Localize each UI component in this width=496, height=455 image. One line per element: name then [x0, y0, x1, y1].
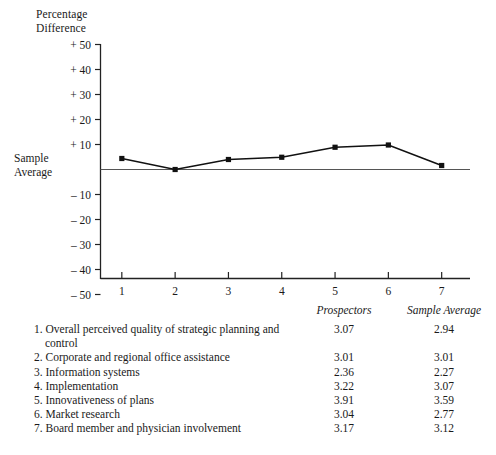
- table-cell-item-label: 4. Implementation: [32, 379, 294, 393]
- y-tick-label: – 10: [70, 189, 91, 201]
- x-axis-ticks: 1234567: [119, 272, 445, 297]
- data-point-marker: [279, 155, 284, 160]
- table-header-row: Prospectors Sample Average: [32, 304, 494, 322]
- table-head: Prospectors Sample Average: [32, 304, 494, 322]
- item-label-text: 2. Corporate and regional office assista…: [43, 350, 294, 364]
- table-cell-prospectors: 3.91: [294, 393, 394, 407]
- table-cell-prospectors: 3.01: [294, 350, 394, 364]
- table-cell-sample-average: 2.77: [394, 407, 494, 421]
- y-tick-label: + 20: [70, 114, 91, 126]
- data-point-marker: [332, 145, 337, 150]
- data-point-marker: [386, 142, 391, 147]
- y-tick-label: + 30: [70, 89, 91, 101]
- data-point-marker: [439, 163, 444, 168]
- item-label-text: 6. Market research: [43, 407, 294, 421]
- table-cell-sample-average: 2.94: [394, 322, 494, 350]
- col-header-items: [32, 304, 294, 322]
- chart-figure: Percentage Difference Sample Average + 5…: [0, 0, 496, 310]
- data-point-marker: [226, 157, 231, 162]
- y-tick-label: – 20: [70, 214, 91, 226]
- table-cell-prospectors: 3.22: [294, 379, 394, 393]
- table-row: 6. Market research3.042.77: [32, 407, 494, 421]
- item-label-text: 4. Implementation: [43, 379, 294, 393]
- col-header-prospectors: Prospectors: [294, 304, 394, 322]
- col-header-sample-average: Sample Average: [394, 304, 494, 322]
- y-tick-label: – 30: [70, 239, 91, 251]
- table-cell-sample-average: 3.12: [394, 421, 494, 435]
- line-chart-plot: + 50+ 40+ 30+ 20+ 10– 10– 20– 30– 40– 50…: [0, 0, 496, 310]
- x-tick-label: 4: [279, 285, 285, 297]
- table-row: 3. Information systems2.362.27: [32, 365, 494, 379]
- y-axis-ticks: + 50+ 40+ 30+ 20+ 10– 10– 20– 30– 40– 50: [70, 39, 101, 301]
- table-body: 1. Overall perceived quality of strategi…: [32, 322, 494, 436]
- item-label-text: 5. Innovativeness of plans: [43, 393, 294, 407]
- table-cell-item-label: 5. Innovativeness of plans: [32, 393, 294, 407]
- table-cell-sample-average: 3.59: [394, 393, 494, 407]
- y-tick-label: + 40: [70, 64, 91, 76]
- data-point-marker: [173, 167, 178, 172]
- item-label-text: 1. Overall perceived quality of strategi…: [43, 322, 294, 350]
- x-tick-label: 7: [439, 285, 445, 297]
- table-cell-prospectors: 2.36: [294, 365, 394, 379]
- x-tick-label: 2: [172, 285, 178, 297]
- table-cell-item-label: 1. Overall perceived quality of strategi…: [32, 322, 294, 350]
- item-label-text: 7. Board member and physician involvemen…: [43, 421, 294, 435]
- y-tick-label: + 50: [70, 39, 91, 51]
- table-cell-item-label: 3. Information systems: [32, 365, 294, 379]
- y-tick-label: – 40: [70, 264, 91, 276]
- y-tick-label: + 10: [70, 139, 91, 151]
- x-tick-label: 3: [226, 285, 232, 297]
- x-tick-label: 6: [385, 285, 391, 297]
- table-cell-sample-average: 3.07: [394, 379, 494, 393]
- table-cell-prospectors: 3.07: [294, 322, 394, 350]
- table-cell-sample-average: 2.27: [394, 365, 494, 379]
- table-cell-item-label: 7. Board member and physician involvemen…: [32, 421, 294, 435]
- table-cell-prospectors: 3.17: [294, 421, 394, 435]
- table-cell-item-label: 6. Market research: [32, 407, 294, 421]
- table-cell-prospectors: 3.04: [294, 407, 394, 421]
- x-tick-label: 5: [332, 285, 338, 297]
- item-label-text: 3. Information systems: [43, 365, 294, 379]
- detail-table-grid: Prospectors Sample Average 1. Overall pe…: [32, 304, 494, 436]
- detail-table: Prospectors Sample Average 1. Overall pe…: [0, 304, 496, 436]
- x-tick-label: 1: [119, 285, 125, 297]
- y-tick-label: – 50: [70, 289, 91, 301]
- table-row: 4. Implementation3.223.07: [32, 379, 494, 393]
- table-cell-sample-average: 3.01: [394, 350, 494, 364]
- table-row: 2. Corporate and regional office assista…: [32, 350, 494, 364]
- table-cell-item-label: 2. Corporate and regional office assista…: [32, 350, 294, 364]
- table-row: 5. Innovativeness of plans3.913.59: [32, 393, 494, 407]
- data-point-marker: [119, 156, 124, 161]
- table-row: 7. Board member and physician involvemen…: [32, 421, 494, 435]
- table-row: 1. Overall perceived quality of strategi…: [32, 322, 494, 350]
